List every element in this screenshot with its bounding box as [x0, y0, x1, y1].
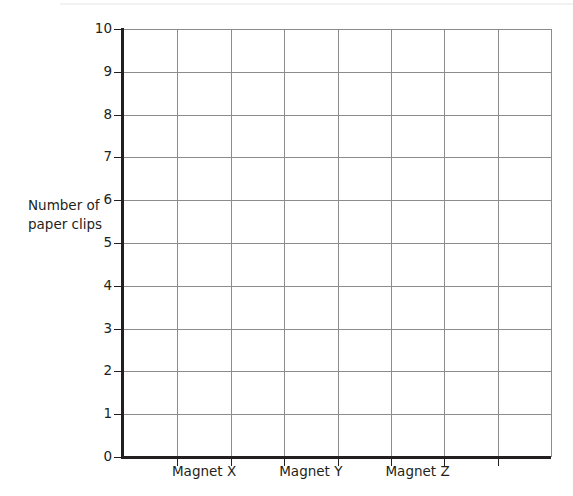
plot-area: [124, 29, 551, 457]
y-axis-tick-label: 5: [12, 236, 112, 250]
y-axis-title: Number of paper clips: [28, 196, 114, 234]
y-axis-tick-label: 1: [12, 407, 112, 421]
y-axis-title-line-1: Number of: [28, 196, 114, 215]
y-axis-tick: [114, 243, 122, 244]
y-axis-tick-label: 9: [12, 65, 112, 79]
y-axis-tick: [114, 115, 122, 116]
y-axis-tick: [114, 329, 122, 330]
y-axis-tick-label: 8: [12, 108, 112, 122]
y-axis-tick-label: 3: [12, 322, 112, 336]
top-divider-rule: [60, 3, 573, 5]
x-axis-tick-label: Magnet Z: [348, 463, 488, 479]
gridline-vertical: [551, 29, 552, 457]
y-axis-tick: [114, 200, 122, 201]
y-axis-tick: [114, 72, 122, 73]
x-axis-tick: [498, 459, 499, 466]
y-axis-tick: [114, 286, 122, 287]
y-axis-tick: [114, 371, 122, 372]
x-axis-line: [121, 456, 551, 459]
y-axis-tick: [114, 157, 122, 158]
gridline-vertical: [338, 29, 339, 457]
y-axis-tick-label: 0: [12, 450, 112, 464]
gridline-vertical: [444, 29, 445, 457]
y-axis-tick-label: 10: [12, 22, 112, 36]
gridline-vertical: [498, 29, 499, 457]
gridline-vertical: [231, 29, 232, 457]
gridline-vertical: [284, 29, 285, 457]
y-axis-tick: [114, 457, 122, 458]
y-axis-tick-label: 4: [12, 279, 112, 293]
gridline-vertical: [177, 29, 178, 457]
y-axis-tick-label: 7: [12, 150, 112, 164]
y-axis-tick-label: 2: [12, 364, 112, 378]
y-axis-tick-labels: 109876543210: [0, 0, 112, 496]
y-axis-tick: [114, 29, 122, 30]
gridline-vertical: [391, 29, 392, 457]
y-axis-tick: [114, 414, 122, 415]
y-axis-title-line-2: paper clips: [28, 215, 114, 234]
chart-page: 109876543210 Magnet XMagnet YMagnet Z Nu…: [0, 0, 573, 496]
